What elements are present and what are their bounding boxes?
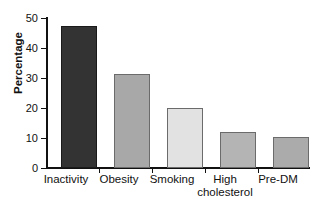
y-tick-label-50: 50	[10, 13, 38, 24]
x-label-high-cholesterol-line1: High	[213, 173, 237, 185]
x-label-high-cholesterol-line2: cholesterol	[187, 186, 263, 199]
y-tick-label-40: 40	[10, 43, 38, 54]
bar-high-cholesterol	[220, 132, 256, 168]
y-tick-label-20: 20	[10, 103, 38, 114]
y-axis-title: Percentage	[12, 13, 24, 113]
bar-chart: Percentage 50 40 30 20 10 0 Inactivity O…	[0, 0, 315, 203]
bar-smoking	[167, 108, 203, 168]
bar-pre-dm	[273, 137, 309, 169]
x-label-pre-dm-line1: Pre-DM	[258, 173, 298, 185]
bar-inactivity	[61, 26, 97, 169]
bar-obesity	[114, 74, 150, 169]
x-label-pre-dm: Pre-DM	[240, 173, 315, 186]
plot-area	[46, 18, 310, 168]
y-tick-label-30: 30	[10, 73, 38, 84]
x-label-obesity-line1: Obesity	[100, 173, 139, 185]
y-tick-label-10: 10	[10, 133, 38, 144]
